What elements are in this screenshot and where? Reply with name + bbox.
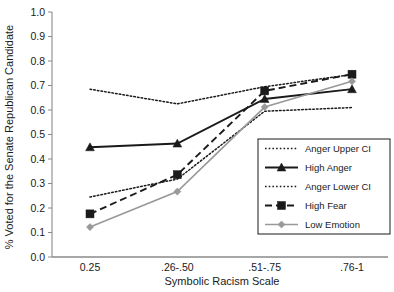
y-tick-label: 0.5 (30, 128, 45, 140)
x-tick-label: .26-.50 (161, 261, 194, 273)
legend-label: Anger Upper CI (305, 143, 371, 154)
y-tick-label: 0.2 (30, 202, 45, 214)
y-tick-label: 0.4 (30, 153, 45, 165)
y-axis-title: % Voted for the Senate Republican Candid… (3, 25, 15, 249)
legend-item[interactable]: High Fear (265, 200, 347, 211)
y-tick-label: 0.0 (30, 251, 45, 263)
x-axis-title: Symbolic Racism Scale (165, 275, 280, 287)
y-tick-label: 0.9 (30, 30, 45, 42)
marker-square (261, 87, 269, 95)
y-tick-label: 0.3 (30, 177, 45, 189)
legend-label: High Fear (305, 200, 347, 211)
y-tick-label: 0.6 (30, 104, 45, 116)
marker-square (173, 171, 181, 179)
y-tick-label: 0.7 (30, 79, 45, 91)
marker-square (86, 210, 94, 218)
y-tick-label: 0.8 (30, 55, 45, 67)
x-tick-label: .76-1 (340, 261, 364, 273)
chart-container: 0.00.10.20.30.40.50.60.70.80.91.0 0.25.2… (0, 0, 394, 292)
x-tick-label: .51-.75 (248, 261, 281, 273)
marker-square (348, 70, 356, 78)
chart-legend: Anger Upper CIHigh AngerAnger Lower CIHi… (258, 139, 390, 234)
y-tick-label: 1.0 (30, 6, 45, 18)
legend-label: Anger Lower CI (305, 181, 371, 192)
legend-label: High Anger (305, 162, 352, 173)
x-tick-label: 0.25 (80, 261, 101, 273)
legend-label: Low Emotion (305, 219, 360, 230)
marker-square (278, 202, 286, 210)
line-chart: 0.00.10.20.30.40.50.60.70.80.91.0 0.25.2… (0, 0, 394, 292)
y-tick-label: 0.1 (30, 226, 45, 238)
